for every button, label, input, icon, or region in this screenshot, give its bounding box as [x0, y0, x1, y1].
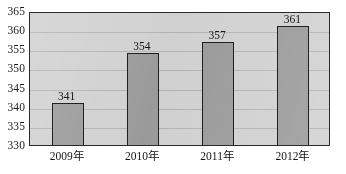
- x-axis: 2009年2010年2011年2012年: [29, 149, 330, 171]
- x-axis-tick-label: 2012年: [275, 151, 309, 163]
- bar-value-label: 341: [58, 91, 75, 103]
- bar-value-label: 357: [209, 30, 226, 42]
- bar-chart: 330335340345350355360365 341354357361 20…: [0, 0, 346, 174]
- y-axis-tick-label: 355: [7, 45, 25, 57]
- y-axis-tick-label: 345: [7, 83, 25, 95]
- bar: [277, 26, 309, 145]
- bar-value-label: 354: [133, 41, 150, 53]
- x-axis-tick-label: 2009年: [50, 151, 84, 163]
- bar: [52, 103, 84, 145]
- y-axis-tick-label: 360: [7, 25, 25, 37]
- bar-value-label: 361: [284, 14, 301, 26]
- y-axis-tick-label: 350: [7, 64, 25, 76]
- bars-group: [30, 13, 329, 145]
- x-axis-tick-label: 2010年: [125, 151, 159, 163]
- bar: [202, 42, 234, 145]
- y-axis-tick-label: 335: [7, 121, 25, 133]
- y-axis-tick-label: 340: [7, 102, 25, 114]
- y-axis-tick-label: 330: [7, 140, 25, 152]
- y-axis-tick-label: 365: [7, 6, 25, 18]
- y-axis: 330335340345350355360365: [0, 0, 29, 174]
- x-axis-tick-label: 2011年: [200, 151, 234, 163]
- plot-area: [29, 12, 330, 146]
- bar: [127, 53, 159, 145]
